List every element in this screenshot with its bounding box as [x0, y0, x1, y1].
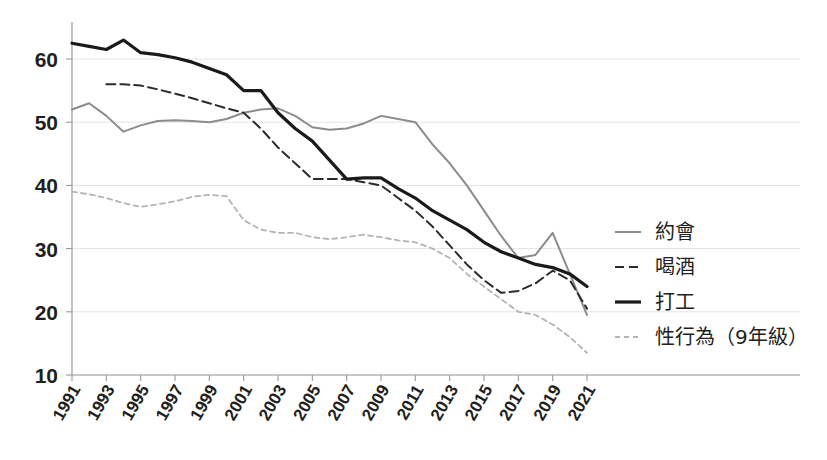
x-tick-label: 2015	[461, 382, 496, 424]
legend-label-1: 喝酒	[655, 255, 695, 279]
y-tick-label: 30	[35, 238, 58, 261]
y-axis-ticks: 102030405060	[35, 48, 72, 387]
legend-label-3: 性行為（9年級）	[655, 325, 808, 349]
y-tick-label: 60	[35, 48, 58, 71]
series-lines	[72, 40, 587, 353]
y-tick-label: 10	[35, 364, 58, 387]
legend-label-2: 打工	[655, 290, 695, 314]
y-tick-label: 20	[35, 301, 58, 324]
x-tick-label: 2001	[221, 382, 256, 424]
legend: 約會喝酒打工性行為（9年級）	[615, 220, 808, 349]
series-line-3	[72, 192, 587, 353]
x-tick-label: 1999	[186, 382, 221, 424]
series-line-1	[106, 84, 587, 308]
x-axis-ticks: 1991199319951997199920012003200520072009…	[49, 375, 599, 424]
series-line-0	[72, 103, 587, 315]
x-tick-label: 2019	[530, 382, 565, 424]
x-tick-label: 2003	[255, 382, 290, 424]
x-tick-label: 1997	[152, 382, 187, 424]
series-line-2	[72, 40, 587, 286]
x-tick-label: 1993	[83, 382, 118, 424]
x-tick-label: 2009	[358, 382, 393, 424]
y-tick-label: 50	[35, 111, 58, 134]
legend-label-0: 約會	[655, 220, 695, 244]
y-tick-label: 40	[35, 174, 58, 197]
x-tick-label: 2021	[564, 382, 599, 424]
x-tick-label: 2013	[427, 382, 462, 424]
x-tick-label: 1991	[49, 382, 84, 424]
x-tick-label: 2017	[495, 382, 530, 424]
x-tick-label: 1995	[118, 382, 153, 424]
x-tick-label: 2007	[324, 382, 359, 424]
line-chart: 102030405060 199119931995199719992001200…	[0, 0, 827, 460]
x-tick-label: 2005	[289, 382, 324, 424]
chart-canvas: 102030405060 199119931995199719992001200…	[0, 0, 827, 460]
x-tick-label: 2011	[393, 382, 428, 423]
